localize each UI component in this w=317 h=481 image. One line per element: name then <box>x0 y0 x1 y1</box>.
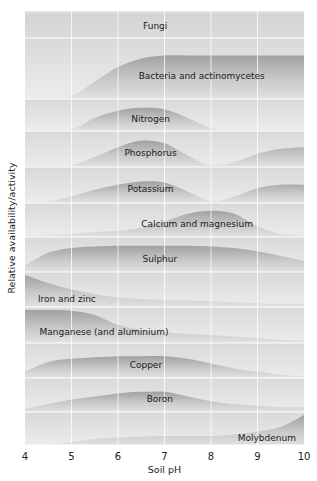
band-label: Iron and zinc <box>38 294 96 304</box>
x-tick-label: 4 <box>22 451 28 462</box>
band-label: Copper <box>130 360 163 370</box>
band-label: Boron <box>147 394 173 404</box>
x-axis-ticks: 45678910 <box>22 451 311 462</box>
band-label: Molybdenum <box>238 433 296 443</box>
band-label: Sulphur <box>142 254 177 264</box>
soil-ph-availability-chart: FungiBacteria and actinomycetesNitrogenP… <box>0 0 317 481</box>
x-tick-label: 9 <box>254 451 260 462</box>
band-label: Calcium and magnesium <box>141 219 253 229</box>
x-tick-label: 6 <box>115 451 121 462</box>
x-tick-label: 5 <box>68 451 74 462</box>
band-label: Phosphorus <box>124 148 177 158</box>
band-label: Nitrogen <box>131 114 170 124</box>
band-label: Bacteria and actinomycetes <box>139 71 265 81</box>
band-label: Manganese (and aluminium) <box>40 327 169 337</box>
x-axis-title: Soil pH <box>148 464 181 475</box>
x-tick-label: 8 <box>208 451 214 462</box>
band-label: Potassium <box>128 184 174 194</box>
band-label: Fungi <box>143 21 167 31</box>
y-axis-title: Relative availability/activity <box>6 162 17 294</box>
x-tick-label: 7 <box>161 451 167 462</box>
x-tick-label: 10 <box>298 451 311 462</box>
